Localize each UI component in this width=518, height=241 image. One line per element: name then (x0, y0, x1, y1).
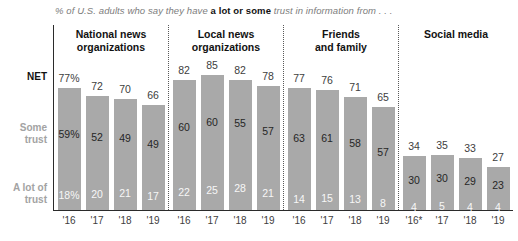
stacked-bar: 5220 (86, 96, 109, 210)
year-label: '19 (376, 215, 389, 226)
group-label-line: Friends (284, 28, 398, 41)
net-value: 34 (408, 140, 420, 152)
net-value: 78 (262, 70, 274, 82)
bars-row: 776314'16766115'17715813'1865578'19 (288, 72, 395, 210)
stacked-bar: 4921 (114, 99, 137, 210)
a-lot-of-trust-value: 21 (257, 177, 280, 210)
stacked-bar: 5813 (344, 97, 367, 210)
stacked-bar: 6115 (316, 90, 339, 210)
stacked-bar: 6022 (173, 80, 196, 210)
year-label: '18 (463, 215, 476, 226)
net-value: 77 (293, 72, 305, 84)
year-label: '16 (177, 215, 190, 226)
bars-row: 34304'16*35305'1733294'1827234'19 (403, 139, 510, 210)
some-trust-value: 63 (288, 88, 311, 188)
stacked-bar: 6025 (201, 75, 224, 210)
net-value: 33 (464, 142, 476, 154)
some-trust-value: 60 (201, 75, 224, 170)
year-label: '18 (233, 215, 246, 226)
stacked-bar: 304 (403, 156, 426, 210)
group-label-line: National news (54, 28, 168, 41)
group-label: Friendsand family (284, 28, 398, 53)
a-lot-of-trust-value: 21 (114, 177, 137, 210)
group-label-line: Local news (169, 28, 283, 41)
group-label: Social media (399, 28, 513, 41)
bar-group-2: Local newsorganizations826022'16856025'1… (169, 25, 284, 210)
net-value: 71 (349, 81, 361, 93)
net-value: 76 (321, 74, 333, 86)
group-label-line: organizations (169, 41, 283, 54)
bar-column: 27234'19 (487, 151, 510, 210)
net-value: 70 (119, 83, 131, 95)
a-lot-of-trust-value: 15 (316, 186, 339, 210)
bar-column: 715813'18 (344, 81, 367, 210)
stacked-bar: 5528 (229, 80, 252, 210)
plot-area: National newsorganizations77%59%18%'1672… (53, 25, 513, 211)
year-label: '18 (348, 215, 361, 226)
net-value: 66 (147, 89, 159, 101)
some-trust-value: 58 (344, 97, 367, 189)
bar-column: 35305'17 (431, 139, 454, 210)
bar-column: 33294'18 (459, 142, 482, 210)
a-lot-of-trust-value: 4 (487, 204, 510, 210)
year-label: '19 (146, 215, 159, 226)
net-value: 82 (234, 64, 246, 76)
stacked-bar: 59%18% (58, 88, 81, 210)
a-lot-of-trust-value: 4 (403, 204, 426, 210)
bar-column: 766115'17 (316, 74, 339, 210)
bars-row: 826022'16856025'17825528'18785721'19 (173, 59, 280, 210)
net-value: 77% (58, 72, 79, 84)
some-trust-value: 49 (114, 99, 137, 177)
year-label: '17 (90, 215, 103, 226)
some-trust-value: 61 (316, 90, 339, 186)
chart-title-prefix: % of U.S. adults who say they have (55, 5, 211, 16)
stacked-bar: 5721 (257, 86, 280, 210)
a-lot-of-trust-value: 18% (58, 181, 81, 210)
stacked-bar: 578 (372, 107, 395, 210)
some-trust-value: 59% (58, 88, 81, 181)
some-trust-value: 60 (173, 80, 196, 175)
some-trust-value: 57 (372, 107, 395, 197)
stacked-bar: 4917 (142, 105, 165, 210)
net-value: 65 (377, 91, 389, 103)
a-lot-of-trust-value: 17 (142, 183, 165, 210)
bar-column: 826022'16 (173, 64, 196, 210)
net-value: 35 (436, 139, 448, 151)
year-label: '17 (435, 215, 448, 226)
bar-column: 785721'19 (257, 70, 280, 210)
a-lot-of-trust-value: 25 (201, 170, 224, 210)
year-label: '17 (205, 215, 218, 226)
year-label: '16 (292, 215, 305, 226)
a-lot-of-trust-value: 8 (372, 197, 395, 210)
net-value: 85 (206, 59, 218, 71)
a-lot-of-trust-value: 4 (459, 204, 482, 210)
a-lot-of-trust-value: 22 (173, 175, 196, 210)
row-label-some-trust: Some trust (0, 122, 47, 146)
year-label: '19 (261, 215, 274, 226)
a-lot-of-trust-value: 20 (86, 178, 109, 210)
some-trust-value: 30 (431, 155, 454, 202)
a-lot-of-trust-value: 14 (288, 188, 311, 210)
stacked-bar: 305 (431, 155, 454, 210)
group-label-line: organizations (54, 41, 168, 54)
bar-column: 776314'16 (288, 72, 311, 210)
some-trust-value: 49 (142, 105, 165, 183)
row-label-net: NET (0, 71, 47, 83)
stacked-bar: 294 (459, 158, 482, 210)
bar-column: 704921'18 (114, 83, 137, 210)
group-label: Local newsorganizations (169, 28, 283, 53)
bar-column: 77%59%18%'16 (58, 72, 81, 210)
bar-column: 65578'19 (372, 91, 395, 210)
some-trust-value: 52 (86, 96, 109, 178)
bar-column: 34304'16* (403, 140, 426, 210)
bar-column: 856025'17 (201, 59, 224, 210)
bar-column: 725220'17 (86, 80, 109, 210)
some-trust-value: 30 (403, 156, 426, 204)
net-value: 27 (492, 151, 504, 163)
chart-title: % of U.S. adults who say they have a lot… (55, 5, 393, 16)
group-label-line: Social media (399, 28, 513, 41)
net-value: 82 (178, 64, 190, 76)
bar-group-4: Social media34304'16*35305'1733294'18272… (399, 25, 513, 210)
chart-title-suffix: trust in information from . . . (271, 5, 392, 16)
some-trust-value: 55 (229, 80, 252, 166)
